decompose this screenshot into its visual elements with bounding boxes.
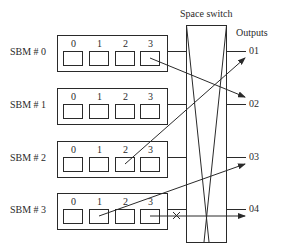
- cell-number: 3: [141, 91, 160, 102]
- cell-number: 3: [141, 196, 160, 207]
- cell-number: 2: [116, 91, 135, 102]
- output-04-label: 04: [249, 203, 259, 214]
- cell-number: 1: [90, 91, 109, 102]
- arrow-sbm0-3-to-02: [150, 58, 245, 97]
- cell-number: 1: [90, 38, 109, 49]
- cell-number: 2: [116, 144, 135, 155]
- cell-number: 3: [141, 38, 160, 49]
- space-switch-title: Space switch: [180, 8, 233, 19]
- cell-number: 2: [116, 38, 135, 49]
- sbm-2-cells: [64, 158, 160, 172]
- output-02-label: 02: [249, 98, 259, 109]
- cell-number: 0: [64, 91, 83, 102]
- cell-number: 1: [90, 144, 109, 155]
- cell-number: 3: [141, 144, 160, 155]
- output-03-label: 03: [249, 151, 259, 162]
- cell-number: 0: [64, 144, 83, 155]
- sbm-1-label: SBM # 1: [10, 99, 46, 110]
- sbm-0-label: SBM # 0: [10, 46, 46, 57]
- cell-number: 1: [90, 196, 109, 207]
- sbm-1-cells: [64, 105, 160, 119]
- outputs-label: Outputs: [236, 27, 268, 38]
- cell-number: 0: [64, 196, 83, 207]
- sbm-0-cells: [64, 52, 160, 66]
- space-switch-box: [187, 26, 227, 243]
- sbm-3-label: SBM # 3: [10, 204, 46, 215]
- output-01-label: 01: [249, 45, 259, 56]
- sbm-2-label: SBM # 2: [10, 152, 46, 163]
- cell-number: 0: [64, 38, 83, 49]
- cell-number: 2: [116, 196, 135, 207]
